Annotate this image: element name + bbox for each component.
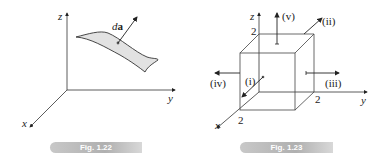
y-tick-2: 2 [315, 93, 321, 105]
arrow-ii [304, 18, 322, 34]
figure-1-23: z y x 2 2 2 (i) (ii) (iii) (iv) (v) [210, 10, 367, 131]
label-i: (i) [245, 75, 256, 88]
label-ii: (ii) [322, 15, 336, 28]
x-axis [30, 90, 67, 127]
x-axis-label: x [214, 119, 220, 131]
da-label: da [112, 20, 124, 32]
surface-patch [76, 32, 158, 72]
label-iii: (iii) [325, 77, 342, 90]
label-iv: (iv) [210, 77, 226, 90]
caption-fig-1-22: Fig. 1.22 [50, 142, 142, 153]
x-tick-2: 2 [238, 114, 244, 126]
caption-fig-1-23: Fig. 1.23 [240, 142, 333, 153]
x-axis-label: x [21, 117, 27, 129]
z-axis-label: z [57, 10, 63, 22]
label-v: (v) [282, 10, 295, 23]
figure-1-22: z y x da [21, 10, 175, 129]
z-tick-2: 2 [251, 25, 257, 37]
y-axis-label: y [360, 94, 366, 106]
figures-canvas: z y x da z y x 2 2 2 (i) (ii) [0, 0, 384, 164]
y-axis-label: y [167, 92, 173, 104]
z-axis-label: z [249, 10, 255, 22]
